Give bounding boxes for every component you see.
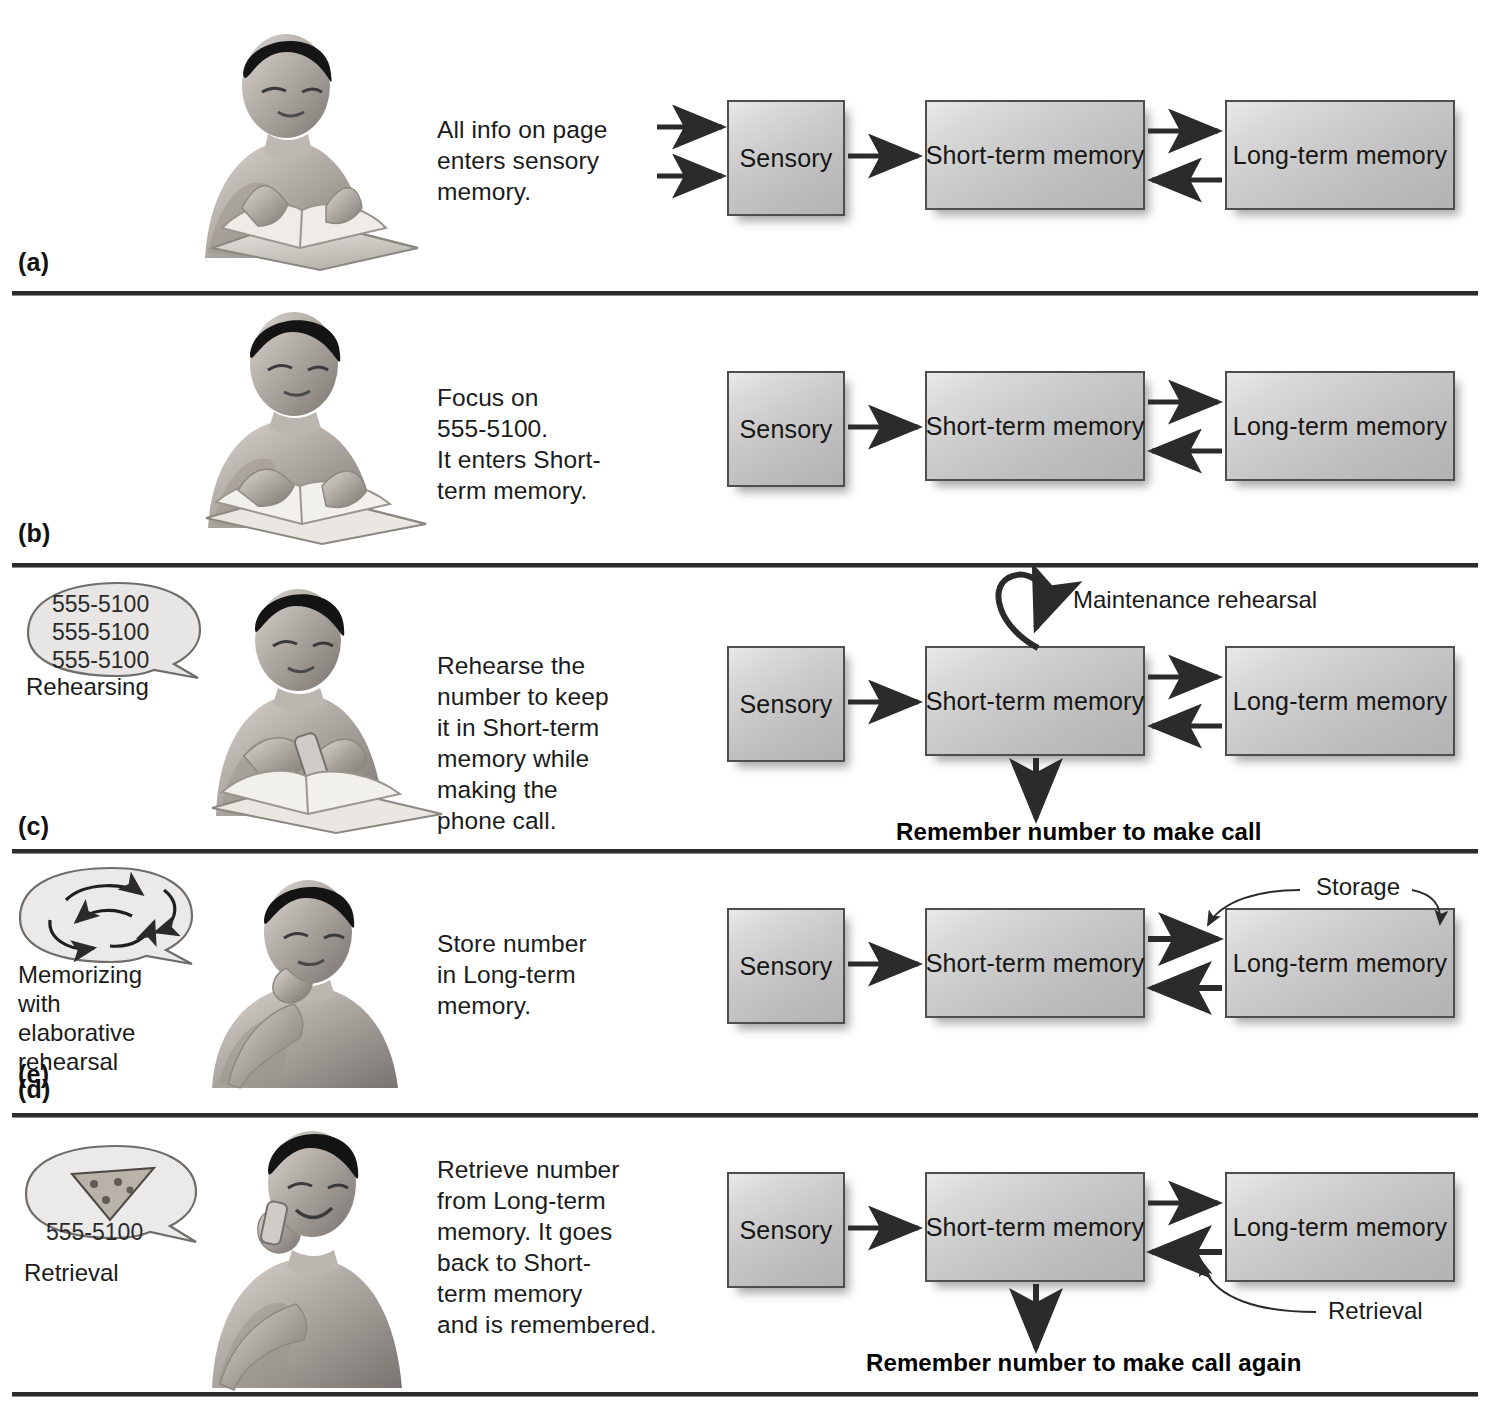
panel-e-arrows — [0, 0, 1490, 1420]
leader-retrieval — [1202, 1262, 1316, 1312]
memory-model-figure: All info on page enters sensory memory. … — [0, 0, 1490, 1420]
panel-divider-e — [12, 1392, 1478, 1397]
annotation-retrieval: Retrieval — [1328, 1297, 1423, 1325]
panel-letter-e: (e) — [18, 1060, 49, 1089]
panel-e-bold-caption: Remember number to make call again — [866, 1349, 1302, 1377]
